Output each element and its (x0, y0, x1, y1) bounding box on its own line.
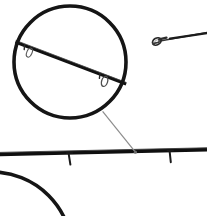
fishing-rod-illustration (0, 0, 207, 216)
product-figure: Fishing rod shaft shown horizontally wit… (0, 0, 207, 216)
callout-anchor-point (134, 151, 137, 154)
magnified-guide-foot-2 (99, 74, 100, 79)
magnifier-primary (14, 6, 126, 118)
line-guide-foot-2 (170, 151, 171, 162)
